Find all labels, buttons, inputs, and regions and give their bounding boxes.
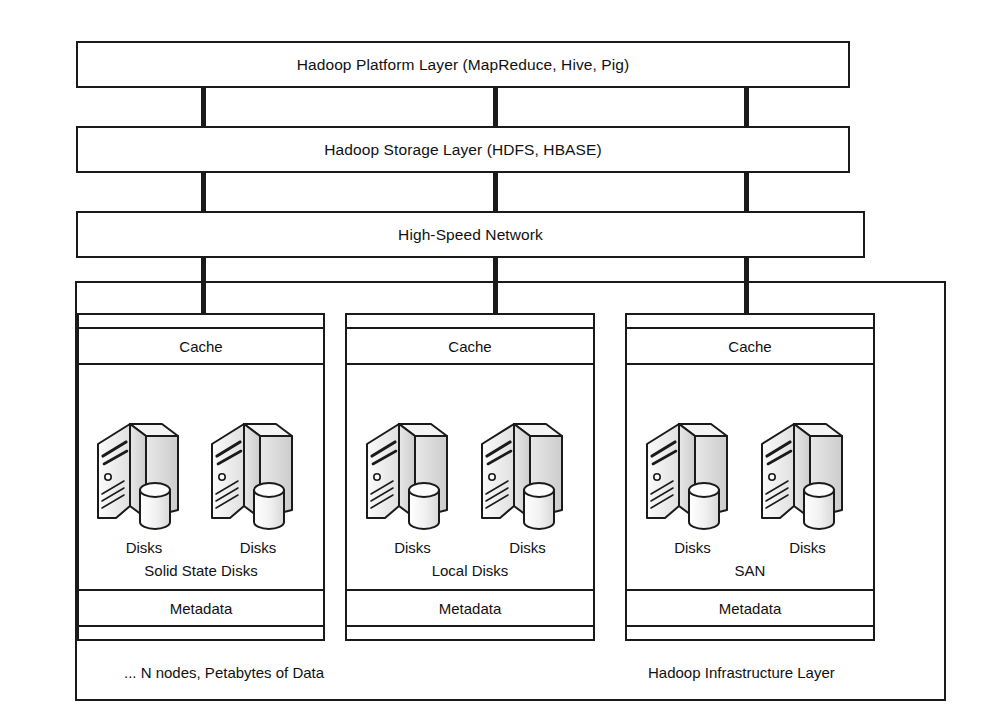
server-unit[interactable]: Disks bbox=[92, 418, 196, 556]
node-group-local-servers: Disks bbox=[347, 365, 593, 556]
layer-hadoop-storage-label: Hadoop Storage Layer (HDFS, HBASE) bbox=[324, 141, 601, 159]
node-group-san-metadata-label: Metadata bbox=[719, 600, 782, 617]
connector-network-node-local bbox=[493, 258, 498, 314]
diagram-canvas: Hadoop Platform Layer (MapReduce, Hive, … bbox=[0, 0, 991, 724]
server-unit[interactable]: Disks bbox=[476, 418, 580, 556]
server-unit[interactable]: Disks bbox=[361, 418, 465, 556]
server-disks-label: Disks bbox=[92, 539, 196, 556]
node-group-ssd-metadata-label: Metadata bbox=[170, 600, 233, 617]
server-disks-label: Disks bbox=[756, 539, 860, 556]
node-group-san-body: Disks bbox=[627, 365, 873, 589]
server-disks-label: Disks bbox=[206, 539, 310, 556]
server-tower-icon bbox=[210, 418, 306, 536]
node-group-local-body: Disks bbox=[347, 365, 593, 589]
node-group-san-metadata-row: Metadata bbox=[627, 589, 873, 625]
node-group-ssd[interactable]: Cache bbox=[77, 313, 325, 641]
server-unit[interactable]: Disks bbox=[756, 418, 860, 556]
caption-hadoop-infrastructure-layer: Hadoop Infrastructure Layer bbox=[648, 664, 835, 681]
server-disks-label: Disks bbox=[476, 539, 580, 556]
layer-hadoop-storage[interactable]: Hadoop Storage Layer (HDFS, HBASE) bbox=[76, 126, 850, 173]
caption-n-nodes: ... N nodes, Petabytes of Data bbox=[124, 664, 324, 681]
node-group-san-bottom-strip bbox=[627, 625, 873, 639]
node-group-local-metadata-row: Metadata bbox=[347, 589, 593, 625]
connector-network-node-ssd bbox=[201, 258, 206, 314]
node-group-ssd-bottom-strip bbox=[79, 625, 323, 639]
node-group-local-cache-label: Cache bbox=[448, 338, 491, 355]
node-group-local-cache-row: Cache bbox=[347, 329, 593, 365]
node-group-ssd-cache-row: Cache bbox=[79, 329, 323, 365]
node-group-ssd-servers: Disks bbox=[79, 365, 323, 556]
server-tower-icon bbox=[760, 418, 856, 536]
server-disks-label: Disks bbox=[641, 539, 745, 556]
node-group-local-storage-kind: Local Disks bbox=[347, 556, 593, 589]
node-group-ssd-storage-kind: Solid State Disks bbox=[79, 556, 323, 589]
node-group-local-top-strip bbox=[347, 315, 593, 329]
layer-hadoop-platform-label: Hadoop Platform Layer (MapReduce, Hive, … bbox=[297, 56, 630, 74]
server-disks-label: Disks bbox=[361, 539, 465, 556]
node-group-local-metadata-label: Metadata bbox=[439, 600, 502, 617]
node-group-ssd-cache-label: Cache bbox=[179, 338, 222, 355]
node-group-local[interactable]: Cache bbox=[345, 313, 595, 641]
layer-high-speed-network[interactable]: High-Speed Network bbox=[76, 211, 865, 258]
node-group-san-storage-kind: SAN bbox=[627, 556, 873, 589]
layer-high-speed-network-label: High-Speed Network bbox=[398, 226, 543, 244]
server-unit[interactable]: Disks bbox=[206, 418, 310, 556]
server-tower-icon bbox=[480, 418, 576, 536]
node-group-ssd-top-strip bbox=[79, 315, 323, 329]
server-tower-icon bbox=[645, 418, 741, 536]
server-unit[interactable]: Disks bbox=[641, 418, 745, 556]
node-group-local-bottom-strip bbox=[347, 625, 593, 639]
connector-network-node-san bbox=[744, 258, 749, 314]
node-group-san-servers: Disks bbox=[627, 365, 873, 556]
node-group-ssd-body: Disks bbox=[79, 365, 323, 589]
node-group-san-cache-row: Cache bbox=[627, 329, 873, 365]
node-group-ssd-metadata-row: Metadata bbox=[79, 589, 323, 625]
server-tower-icon bbox=[96, 418, 192, 536]
node-group-san-top-strip bbox=[627, 315, 873, 329]
layer-hadoop-platform[interactable]: Hadoop Platform Layer (MapReduce, Hive, … bbox=[76, 41, 850, 88]
node-group-san-cache-label: Cache bbox=[728, 338, 771, 355]
server-tower-icon bbox=[365, 418, 461, 536]
node-group-san[interactable]: Cache bbox=[625, 313, 875, 641]
